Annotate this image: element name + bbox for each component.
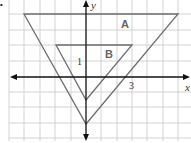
x-axis-left-arrow-icon xyxy=(10,74,17,80)
x-axis-right-arrow-icon xyxy=(183,74,190,80)
y-axis-up-arrow-icon xyxy=(83,0,89,7)
y-axis-label: y xyxy=(90,0,96,11)
triangle-a-label: A xyxy=(121,18,129,30)
tick-label-x-3: 3 xyxy=(129,80,134,91)
triangle-b-label: B xyxy=(105,48,113,60)
y-axis-down-arrow-icon xyxy=(83,134,89,141)
grid xyxy=(9,0,191,141)
coordinate-plane-figure: • y x 1 3 A B xyxy=(0,0,191,143)
bullet-marker: • xyxy=(0,0,3,9)
tick-label-y-1: 1 xyxy=(77,56,82,67)
x-axis-label: x xyxy=(184,81,190,93)
